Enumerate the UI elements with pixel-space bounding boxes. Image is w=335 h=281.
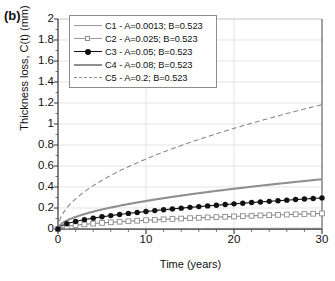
figure-panel: (b) Thickness loss, C(t) (mm) Time (year… — [0, 0, 335, 281]
legend-key-thick-line-icon — [73, 58, 103, 71]
legend-key-dashed-line-icon — [73, 71, 103, 84]
legend-label-c4: C4 - A=0.08; B=0.523 — [103, 60, 192, 70]
legend-item-c1: C1 - A=0.0013; B=0.523 — [73, 19, 212, 32]
legend-label-c2: C2 - A=0.025; B=0.523 — [103, 34, 198, 44]
legend-key-square-marker-icon — [73, 32, 103, 45]
legend-item-c3: C3 - A=0.05; B=0.523 — [73, 45, 212, 58]
legend-label-c3: C3 - A=0.05; B=0.523 — [103, 47, 192, 57]
legend-item-c4: C4 - A=0.08; B=0.523 — [73, 58, 212, 71]
legend-label-c5: C5 - A=0.2; B=0.523 — [103, 73, 187, 83]
legend-label-c1: C1 - A=0.0013; B=0.523 — [103, 21, 203, 31]
legend-key-line-icon — [73, 19, 103, 32]
legend-key-circle-marker-icon — [73, 45, 103, 58]
legend-item-c2: C2 - A=0.025; B=0.523 — [73, 32, 212, 45]
chart-legend: C1 - A=0.0013; B=0.523 C2 - A=0.025; B=0… — [69, 15, 217, 88]
legend-item-c5: C5 - A=0.2; B=0.523 — [73, 71, 212, 84]
